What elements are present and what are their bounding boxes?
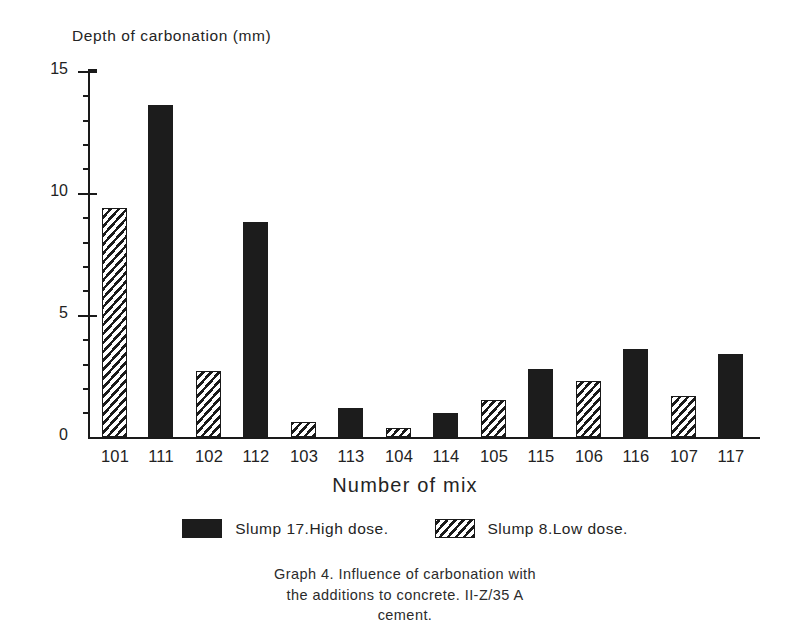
- legend-entry-high-dose[interactable]: Slump 17.High dose.: [182, 519, 388, 538]
- legend-swatch-hatched-icon: [435, 519, 475, 538]
- caption-line-1: Graph 4. Influence of carbonation with: [0, 564, 810, 585]
- legend-label-high-dose: Slump 17.High dose.: [235, 520, 388, 538]
- bar-105[interactable]: [481, 400, 506, 437]
- bar-114[interactable]: [433, 413, 458, 437]
- x-tick-label-103: 103: [279, 447, 329, 466]
- bar-115[interactable]: [528, 369, 553, 437]
- bar-106[interactable]: [576, 381, 601, 437]
- x-tick-label-101: 101: [90, 447, 140, 466]
- x-tick-label-111: 111: [136, 447, 186, 466]
- legend-label-low-dose: Slump 8.Low dose.: [488, 520, 628, 538]
- x-axis-title: Number of mix: [0, 474, 810, 497]
- x-tick-label-117: 117: [706, 447, 756, 466]
- bar-111[interactable]: [148, 105, 173, 437]
- x-tick-label-114: 114: [421, 447, 471, 466]
- x-tick-label-102: 102: [184, 447, 234, 466]
- bar-113[interactable]: [338, 408, 363, 437]
- caption-line-2: the additions to concrete. II-Z/35 A: [0, 585, 810, 606]
- bar-107[interactable]: [671, 396, 696, 437]
- x-tick-label-106: 106: [564, 447, 614, 466]
- caption-line-3: cement.: [0, 605, 810, 626]
- bar-117[interactable]: [718, 354, 743, 437]
- bar-104[interactable]: [386, 428, 411, 437]
- bar-102[interactable]: [196, 371, 221, 437]
- x-tick-label-115: 115: [516, 447, 566, 466]
- bar-112[interactable]: [243, 222, 268, 437]
- carbonation-bar-chart: Depth of carbonation (mm) 15 10 5 0: [0, 0, 810, 633]
- figure-caption: Graph 4. Influence of carbonation with t…: [0, 564, 810, 626]
- x-tick-label-113: 113: [326, 447, 376, 466]
- legend: Slump 17.High dose. Slump 8.Low dose.: [0, 519, 810, 538]
- bar-116[interactable]: [623, 349, 648, 437]
- x-tick-label-116: 116: [611, 447, 661, 466]
- x-tick-label-105: 105: [469, 447, 519, 466]
- legend-swatch-solid-icon: [182, 519, 222, 538]
- legend-entry-low-dose[interactable]: Slump 8.Low dose.: [435, 519, 628, 538]
- x-tick-label-112: 112: [231, 447, 281, 466]
- x-tick-label-107: 107: [659, 447, 709, 466]
- x-tick-label-104: 104: [374, 447, 424, 466]
- bars-layer: [0, 0, 810, 633]
- bar-103[interactable]: [291, 422, 316, 437]
- bar-101[interactable]: [102, 208, 127, 437]
